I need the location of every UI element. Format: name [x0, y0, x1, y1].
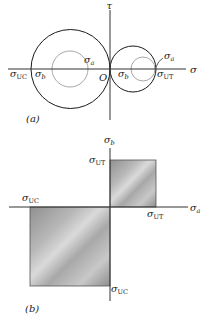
figure-a-mohr-circles: τ σ O σUC σb σa σb σUT σa (a): [8, 0, 198, 124]
origin-label: O: [99, 72, 107, 83]
sigma-b-right-label: σb: [118, 68, 129, 81]
sigma-a-left-label: σa: [84, 54, 95, 67]
figure-a-caption: (a): [26, 113, 40, 124]
safe-region-tension: [110, 160, 156, 207]
sigma-ut-label: σUT: [157, 68, 174, 81]
safe-region-compression: [30, 207, 110, 286]
sigma-uc-label: σUC: [10, 68, 27, 81]
sigma-uc-bottom-label: σUC: [111, 283, 128, 296]
sigma-uc-left-label: σUC: [22, 192, 39, 205]
sigma-a-right-label: σa: [164, 50, 175, 63]
failure-diagram: τ σ O σUC σb σa σb σUT σa (a) σb σa σUT …: [0, 0, 206, 322]
sigma-a-axis-label: σa: [190, 202, 201, 215]
sigma-b-axis-label: σb: [104, 134, 115, 147]
figure-b-caption: (b): [25, 303, 39, 314]
sigma-b-left-label: σb: [35, 68, 46, 81]
sigma-ut-right-label: σUT: [147, 208, 164, 221]
sigma-a-leader-line: [156, 58, 163, 67]
figure-b-failure-envelope: σb σa σUT σUC σUT σUC (b): [9, 134, 201, 314]
sigma-ut-top-label: σUT: [89, 154, 106, 167]
sigma-axis-label: σ: [190, 64, 198, 75]
tau-axis-label: τ: [107, 0, 113, 11]
